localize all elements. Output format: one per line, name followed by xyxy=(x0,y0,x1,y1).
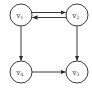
node-v4: v4 xyxy=(10,61,32,83)
node-v3: v3 xyxy=(66,61,88,83)
directed-graph-diagram: v1 v2 v4 v3 xyxy=(0,0,92,93)
node-v2: v2 xyxy=(66,4,88,26)
node-v1: v1 xyxy=(10,4,32,26)
